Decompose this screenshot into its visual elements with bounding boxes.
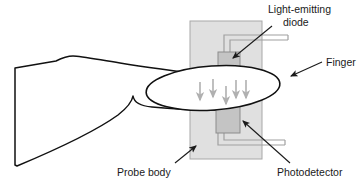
led-label-line1: Light-emitting [268,3,331,15]
led-label-line2: diode [283,16,309,28]
photodetector-label: Photodetector [277,166,343,178]
finger-label: Finger [326,56,356,68]
pulse-oximeter-diagram: Light-emitting diode Finger Probe body P… [0,0,363,183]
probe-body-label: Probe body [117,166,171,178]
diagram-canvas: Light-emitting diode Finger Probe body P… [0,0,363,183]
